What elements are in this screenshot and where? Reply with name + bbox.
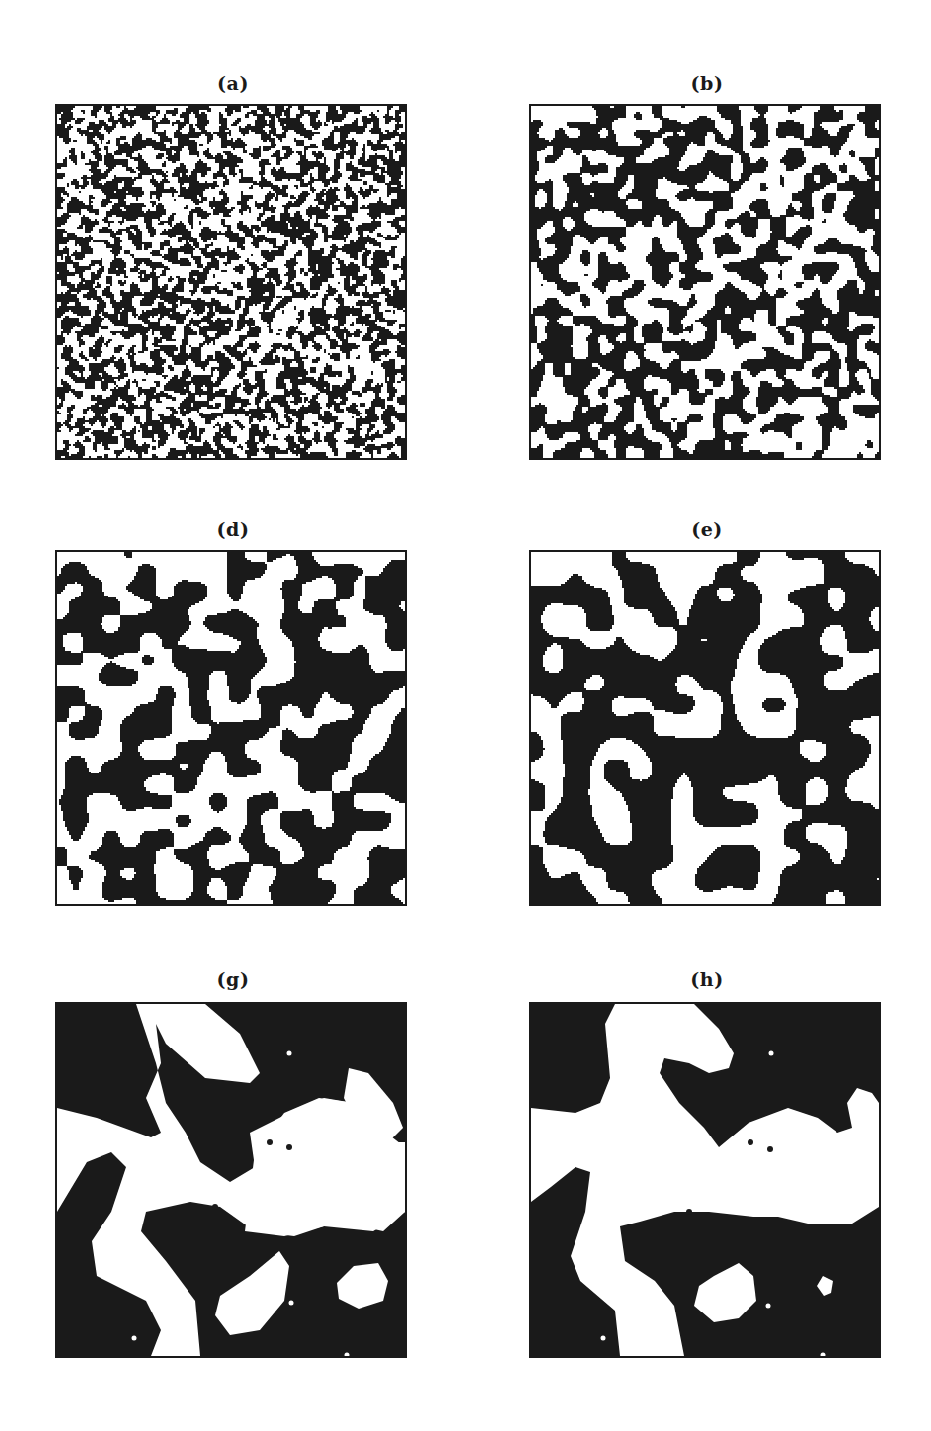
panel-image — [529, 1002, 881, 1358]
panel-label: (e) — [529, 518, 885, 540]
panel-label: (b) — [529, 72, 885, 94]
page-header-fragment — [0, 0, 931, 6]
panel-image — [55, 104, 407, 460]
panel-image — [55, 550, 407, 906]
panel-image — [529, 104, 881, 460]
panel-label: (g) — [55, 968, 411, 990]
panel-label: (a) — [55, 72, 411, 94]
panel-image — [529, 550, 881, 906]
panel-label: (d) — [55, 518, 411, 540]
panel-image — [55, 1002, 407, 1358]
panel-label: (h) — [529, 968, 885, 990]
